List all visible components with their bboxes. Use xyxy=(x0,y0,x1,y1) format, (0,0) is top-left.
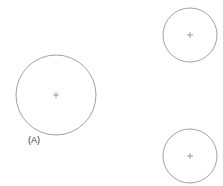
center-mark-icon xyxy=(187,32,193,38)
circle-bottom-right xyxy=(163,129,217,183)
circle-a xyxy=(16,55,96,135)
center-mark-icon xyxy=(187,153,193,159)
label-a: (A) xyxy=(28,135,40,145)
circle-top-right xyxy=(163,8,217,62)
diagram-canvas xyxy=(0,0,223,186)
center-mark-icon xyxy=(53,92,59,98)
